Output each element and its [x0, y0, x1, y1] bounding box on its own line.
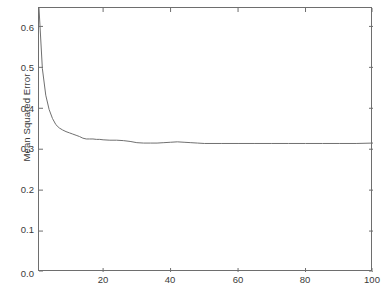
x-tick-label-1: 40 — [150, 274, 190, 285]
y-tick-label-5: 0.5 — [0, 62, 34, 73]
x-tick-label-3: 80 — [285, 274, 325, 285]
x-tick-label-0: 20 — [83, 274, 123, 285]
y-tick-label-3: 0.3 — [0, 143, 34, 154]
x-tick-label-4: 100 — [352, 274, 384, 285]
y-tick-label-2: 0.2 — [0, 184, 34, 195]
y-tick-label-1: 0.1 — [0, 224, 34, 235]
data-series-line — [39, 8, 373, 143]
y-tick-label-4: 0.4 — [0, 103, 34, 114]
x-tick-label-2: 60 — [218, 274, 258, 285]
plot-area — [38, 7, 372, 271]
y-tick-label-6: 0.6 — [0, 22, 34, 33]
plot-canvas — [39, 8, 373, 272]
axis-ticks — [39, 8, 373, 272]
chart-figure: Mean Squared Error 0.0 0.1 0.2 0.3 0.4 0… — [0, 0, 384, 307]
y-tick-label-0: 0.0 — [0, 268, 34, 279]
